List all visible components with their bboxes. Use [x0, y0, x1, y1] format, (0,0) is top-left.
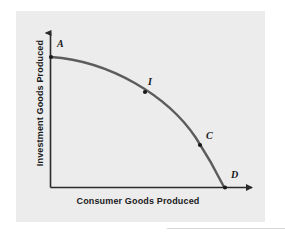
point-label-i: I — [148, 76, 152, 87]
y-axis-title: Investment Goods Produced — [35, 23, 45, 183]
x-axis-title: Consumer Goods Produced — [58, 196, 218, 206]
point-label-c: C — [206, 130, 213, 141]
data-point-a — [49, 55, 53, 59]
data-point-i — [143, 90, 147, 94]
scan-artifact-line — [167, 228, 285, 229]
ppf-curve — [51, 57, 224, 187]
point-label-d: D — [231, 169, 238, 180]
data-point-c — [198, 143, 202, 147]
data-point-d — [223, 185, 227, 189]
point-label-a: A — [57, 38, 64, 49]
ppf-figure: Investment Goods Produced Consumer Goods… — [0, 0, 285, 236]
